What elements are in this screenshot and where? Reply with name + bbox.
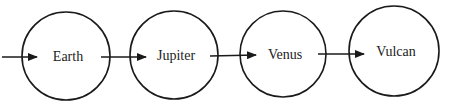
node-label: Venus: [268, 47, 302, 62]
node-label: Vulcan: [376, 44, 416, 59]
node-venus: Venus: [240, 11, 326, 97]
node-vulcan: Vulcan: [349, 6, 439, 96]
node-label: Jupiter: [157, 48, 195, 63]
arrow-jupiter-to-venus: [210, 55, 256, 56]
nodes: EarthJupiterVenusVulcan: [22, 6, 439, 100]
linked-list-diagram: EarthJupiterVenusVulcan: [0, 0, 455, 108]
node-earth: Earth: [22, 12, 110, 100]
node-jupiter: Jupiter: [130, 11, 218, 99]
node-label: Earth: [53, 49, 83, 64]
